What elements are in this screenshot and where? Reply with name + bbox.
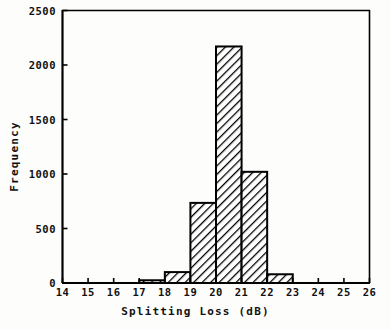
y-tick-label: 500 — [0, 223, 56, 235]
histogram-bar — [216, 46, 242, 283]
x-tick-label: 15 — [74, 286, 102, 298]
histogram-plot — [0, 0, 391, 330]
x-tick-label: 26 — [356, 286, 384, 298]
histogram-bar — [165, 272, 191, 283]
x-tick-label: 22 — [253, 286, 281, 298]
x-tick-label: 19 — [176, 286, 204, 298]
x-tick-label: 23 — [279, 286, 307, 298]
x-tick-label: 14 — [49, 286, 77, 298]
y-tick-label: 2000 — [0, 59, 56, 71]
histogram-bar — [242, 172, 268, 283]
x-tick-label: 18 — [151, 286, 179, 298]
x-tick-label: 25 — [330, 286, 358, 298]
histogram-figure: 05001000150020002500 1415161718192021222… — [0, 0, 391, 330]
y-axis-title: Frequency — [8, 115, 21, 199]
histogram-bar — [267, 274, 293, 283]
histogram-bar — [190, 203, 216, 283]
y-tick-label: 2500 — [0, 5, 56, 17]
x-tick-label: 21 — [228, 286, 256, 298]
x-tick-label: 20 — [202, 286, 230, 298]
x-axis-title: Splitting Loss (dB) — [0, 305, 391, 318]
x-tick-label: 24 — [304, 286, 332, 298]
x-tick-label: 17 — [125, 286, 153, 298]
x-tick-label: 16 — [100, 286, 128, 298]
